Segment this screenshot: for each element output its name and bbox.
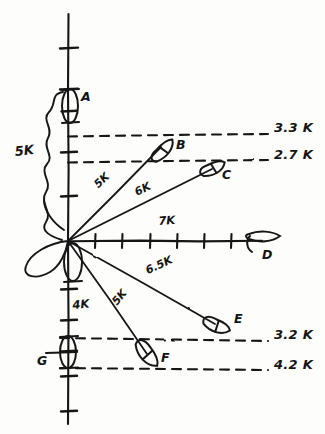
y-axis-down-speed-label: 4K xyxy=(72,299,90,312)
vessel-label-b: B xyxy=(176,139,186,152)
vessel-e xyxy=(201,315,232,337)
vessel-label-g: G xyxy=(37,355,47,368)
dashed-line-3-3k xyxy=(68,134,268,137)
dashed-line-3-2k xyxy=(60,338,268,341)
dashed-line-2-7k xyxy=(68,160,268,163)
vessel-label-a: A xyxy=(81,91,91,104)
scale-brace xyxy=(44,92,63,240)
dashed-range-lines xyxy=(60,134,268,370)
diagram-canvas: 5K 7K 4K 5K 6K 6.5K 5K A B C D E F G 3.3… xyxy=(0,0,325,434)
range-label-b: 3.3 K xyxy=(274,121,313,134)
y-axis xyxy=(68,14,69,424)
vessel-label-d: D xyxy=(262,249,272,262)
vector-to-e xyxy=(68,241,215,324)
range-label-c: 2.7 K xyxy=(274,148,313,161)
vessel-label-c: C xyxy=(222,169,231,182)
vector-lines xyxy=(68,147,215,354)
dashed-line-4-2k xyxy=(60,368,268,370)
range-label-f: 4.2 K xyxy=(274,358,313,371)
range-label-e: 3.2 K xyxy=(274,328,313,341)
vessel-g xyxy=(46,336,78,369)
x-axis xyxy=(68,241,262,242)
vector-to-c xyxy=(68,169,212,241)
vessel-label-e: E xyxy=(234,313,243,326)
vessel-a xyxy=(62,89,79,123)
vessel-label-f: F xyxy=(161,352,170,365)
scale-brace-label: 5K xyxy=(14,143,34,158)
x-axis-speed-label: 7K xyxy=(158,215,176,228)
